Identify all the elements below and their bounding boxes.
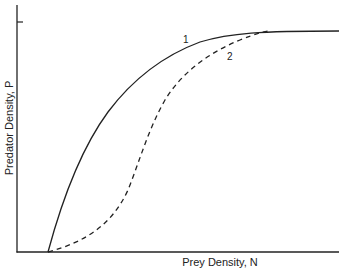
x-axis-label: Prey Density, N [120,256,320,268]
y-axis-label: Predator Density, P [3,53,15,203]
curve-2-label: 2 [227,51,233,62]
curve-1-label: 1 [183,34,189,45]
curve-1-solid [48,31,339,252]
chart-canvas [0,0,341,270]
